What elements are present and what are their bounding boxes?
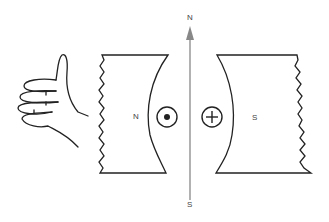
- field-label-bottom: S: [187, 200, 192, 209]
- current-into-page-icon: [202, 107, 222, 127]
- south-pole-magnet: [216, 55, 311, 173]
- field-label-top: N: [187, 13, 193, 22]
- right-hand-icon: [18, 55, 88, 147]
- pole-label-south: S: [252, 113, 257, 122]
- current-out-of-page-icon: [157, 107, 177, 127]
- arrow-up-icon: [186, 26, 194, 40]
- diagram-canvas: [0, 0, 329, 222]
- pole-label-north: N: [133, 112, 139, 121]
